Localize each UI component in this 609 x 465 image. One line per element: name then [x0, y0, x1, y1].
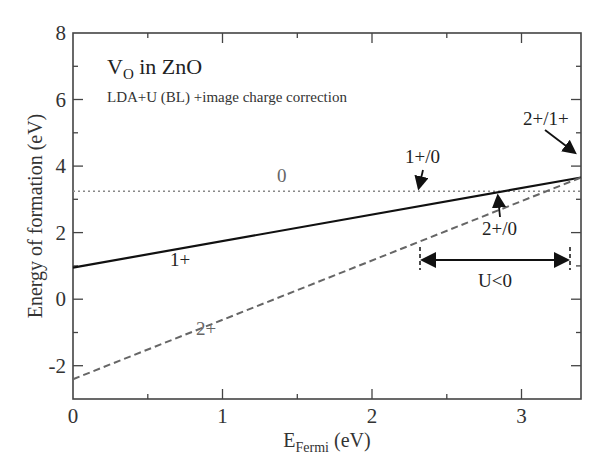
label-series-1plus: 1+ [170, 249, 190, 270]
y-axis-ticks [73, 66, 581, 365]
label-u-negative: U<0 [478, 270, 512, 291]
y-tick-2: 2 [56, 221, 67, 245]
arrow-2plus-1plus [545, 130, 574, 152]
plot-frame [73, 33, 581, 399]
y-axis-title: Energy of formation (eV) [24, 114, 47, 319]
x-tick-1: 1 [217, 404, 228, 428]
y-tick-4: 4 [56, 154, 67, 178]
arrow-1plus-0 [419, 170, 423, 187]
y-tick-neg2: -2 [49, 354, 67, 378]
label-1plus-0: 1+/0 [405, 146, 440, 167]
label-2plus-0: 2+/0 [482, 218, 517, 239]
y-tick-8: 8 [56, 21, 67, 45]
x-tick-2: 2 [367, 404, 378, 428]
chart-title: VO in ZnO [107, 54, 202, 82]
x-axis-title: EFermi (eV) [283, 429, 370, 455]
y-tick-6: 6 [56, 88, 67, 112]
x-tick-0: 0 [68, 404, 79, 428]
formation-energy-chart: 0 1 2 3 -2 0 2 4 6 8 EFermi (eV) Energy … [0, 0, 609, 465]
label-2plus-1plus: 2+/1+ [523, 108, 569, 129]
label-series-2plus: 2+ [196, 318, 216, 339]
arrow-2plus-0 [498, 197, 500, 217]
chart-subtitle: LDA+U (BL) +image charge correction [107, 89, 347, 106]
x-axis-ticks [148, 33, 522, 399]
label-series-0: 0 [277, 165, 287, 186]
x-tick-3: 3 [516, 404, 527, 428]
y-tick-0: 0 [56, 287, 67, 311]
